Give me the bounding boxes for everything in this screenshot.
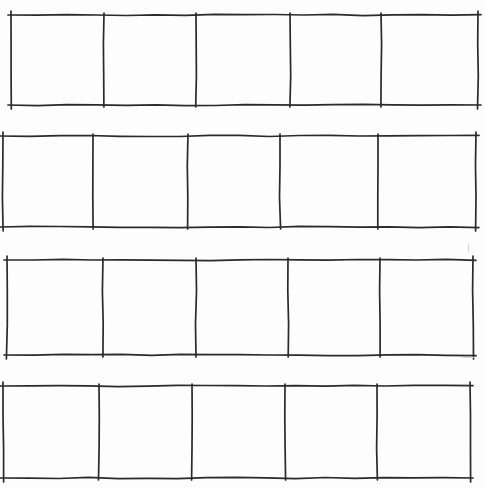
bottom-edge-line xyxy=(8,104,481,105)
cell-divider-line xyxy=(285,384,286,480)
left-edge-line xyxy=(2,132,3,231)
right-edge-line xyxy=(476,132,477,231)
right-edge-line xyxy=(478,11,479,109)
cell-divider-line xyxy=(196,13,197,107)
top-edge-line xyxy=(8,14,481,15)
cell-divider-line xyxy=(380,258,381,357)
bottom-edge-line xyxy=(4,354,476,355)
cell-divider-line xyxy=(99,384,100,480)
bottom-edge-line xyxy=(0,477,473,478)
pencil-mark xyxy=(468,243,469,253)
top-edge-line xyxy=(0,385,473,386)
cell-divider-line xyxy=(102,258,103,357)
cell-divider-line xyxy=(381,13,382,107)
top-edge-line xyxy=(0,135,479,136)
top-edge-line xyxy=(4,259,476,260)
cell-divider-line xyxy=(280,134,281,229)
strip-outline xyxy=(11,15,485,115)
cell-divider-line xyxy=(192,384,193,480)
bottom-edge-line xyxy=(0,226,479,227)
strip-3 xyxy=(7,260,473,355)
cell-divider-line xyxy=(290,13,291,107)
left-edge-line xyxy=(3,382,4,482)
cell-divider-line xyxy=(377,384,378,480)
right-edge-line xyxy=(470,382,471,482)
sketch-paper xyxy=(0,0,485,489)
cell-divider-line xyxy=(187,134,188,229)
strip-outline xyxy=(3,386,480,488)
strip-2 xyxy=(3,136,476,227)
pencil-mark xyxy=(462,357,474,358)
right-edge-line xyxy=(473,256,474,359)
left-edge-line xyxy=(6,256,7,359)
strip-1 xyxy=(11,15,478,105)
strip-outline xyxy=(3,136,485,237)
cell-divider-line xyxy=(103,13,104,107)
strip-outline xyxy=(7,260,483,365)
strip-4 xyxy=(3,386,470,478)
cell-divider-line xyxy=(196,258,197,357)
cell-divider-line xyxy=(288,258,289,357)
